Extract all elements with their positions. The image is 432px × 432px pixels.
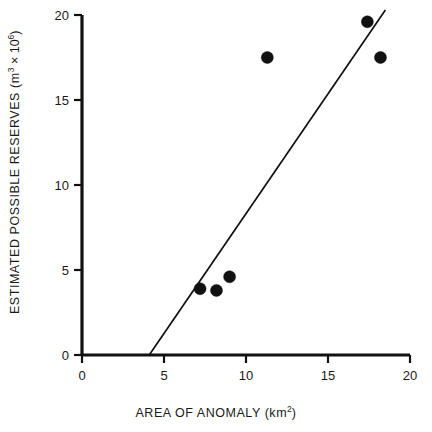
y-tick-label: 0 — [62, 348, 69, 363]
data-point — [194, 283, 206, 295]
plot-canvas: 05101520 05101520 — [0, 0, 432, 432]
data-point — [224, 271, 236, 283]
x-axis-title-tail: ) — [292, 406, 297, 420]
data-point — [374, 52, 386, 64]
x-tick-label: 5 — [160, 368, 167, 383]
y-axis-title-main: ESTIMATED POSSIBLE RESERVES (m — [8, 72, 22, 314]
x-axis-title: AREA OF ANOMALY (km2) — [0, 404, 432, 420]
x-tick-label: 20 — [403, 368, 417, 383]
y-tick-label: 5 — [62, 263, 69, 278]
data-point — [361, 16, 373, 28]
x-tick-label: 15 — [321, 368, 335, 383]
x-tick-label: 10 — [239, 368, 253, 383]
x-axis-title-main: AREA OF ANOMALY (km — [135, 406, 287, 420]
y-axis-title-times: × 10 — [8, 39, 22, 67]
y-axis-title: ESTIMATED POSSIBLE RESERVES (m3 × 106) — [6, 0, 28, 388]
data-points-group — [194, 16, 386, 297]
y-axis-title-scale-exponent: 6 — [6, 35, 16, 40]
y-axis-tick-labels: 05101520 — [55, 8, 69, 363]
y-tick-label: 10 — [55, 178, 69, 193]
data-point — [261, 52, 273, 64]
axes-group — [82, 15, 410, 355]
scatter-plot-figure: 05101520 05101520 AREA OF ANOMALY (km2) … — [0, 0, 432, 432]
y-tick-label: 15 — [55, 93, 69, 108]
data-point — [210, 284, 222, 296]
x-axis-tick-labels: 05101520 — [78, 368, 417, 383]
y-tick-label: 20 — [55, 8, 69, 23]
y-axis-title-tail: ) — [8, 30, 22, 35]
y-axis-title-unit-exponent: 3 — [6, 68, 16, 73]
x-tick-label: 0 — [78, 368, 85, 383]
